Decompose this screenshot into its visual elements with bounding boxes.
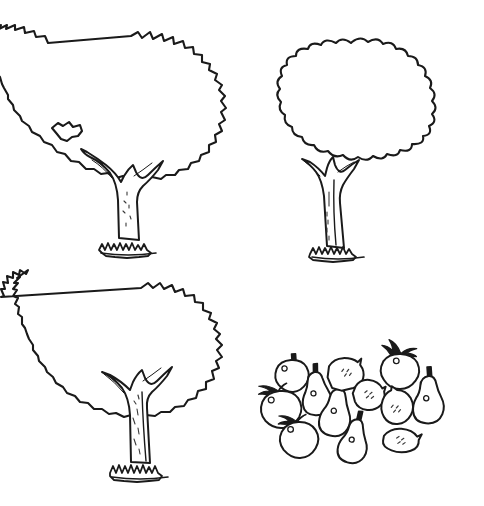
pear-stem-icon <box>427 367 432 376</box>
illustration-canvas: Trees and Fruits Line Drawing Black and … <box>0 0 484 506</box>
pear-dimple <box>331 408 337 414</box>
pear-dimple <box>423 395 429 401</box>
apple-dimple <box>282 366 288 372</box>
pear-dimple <box>349 437 354 442</box>
pear-stem-icon <box>312 364 318 373</box>
apple-dimple <box>288 426 294 432</box>
line-art-drawing <box>0 0 484 506</box>
apple-dimple <box>268 397 274 403</box>
pear-dimple <box>311 391 317 397</box>
apple-dimple <box>393 358 399 364</box>
